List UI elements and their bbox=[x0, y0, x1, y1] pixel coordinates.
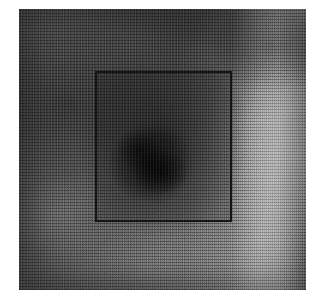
figure-root bbox=[0, 0, 327, 308]
scan-image-plate bbox=[19, 9, 306, 290]
roi-rectangle[interactable] bbox=[95, 71, 232, 222]
